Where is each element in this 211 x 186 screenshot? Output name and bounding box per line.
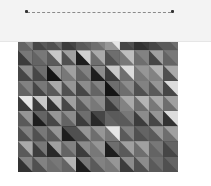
mosaic-cell (105, 111, 120, 126)
mosaic-cell (105, 126, 120, 141)
mosaic-cell (134, 126, 149, 141)
end-marker[interactable] (171, 10, 174, 13)
dashed-track[interactable] (27, 12, 171, 13)
mosaic-cell (163, 141, 178, 156)
mosaic-cell (18, 126, 33, 141)
mosaic-cell (149, 81, 164, 96)
mosaic-cell (105, 81, 120, 96)
mosaic-cell (105, 96, 120, 111)
mosaic-cell (18, 157, 33, 172)
mosaic-cell (105, 50, 120, 65)
mosaic-cell (91, 141, 106, 156)
mosaic-cell (149, 141, 164, 156)
mosaic-cell (120, 65, 135, 80)
mosaic-cell (120, 126, 135, 141)
mosaic-cell (47, 65, 62, 80)
mosaic-cell (163, 96, 178, 111)
mosaic-cell (134, 96, 149, 111)
mosaic-cell (120, 111, 135, 126)
mosaic-cell (18, 141, 33, 156)
mosaic-cell (33, 126, 48, 141)
mosaic-cell (33, 141, 48, 156)
mosaic-cell (163, 81, 178, 96)
mosaic-cell (134, 141, 149, 156)
mosaic-cell (62, 65, 77, 80)
mosaic-cell (47, 81, 62, 96)
mosaic-cell (91, 65, 106, 80)
mosaic-cell (62, 81, 77, 96)
mosaic-cell (76, 126, 91, 141)
mosaic-cell (76, 81, 91, 96)
mosaic-cell (134, 81, 149, 96)
mosaic-cell (149, 157, 164, 172)
mosaic-cell (62, 141, 77, 156)
mosaic-cell (47, 126, 62, 141)
mosaic-cell (62, 96, 77, 111)
mosaic-cell (120, 50, 135, 65)
mosaic-cell (134, 157, 149, 172)
triangle-mosaic-image (18, 35, 178, 172)
mosaic-cell (163, 111, 178, 126)
mosaic-cell (33, 65, 48, 80)
mosaic-cell (33, 96, 48, 111)
mosaic-cell (120, 81, 135, 96)
mosaic-cell (76, 65, 91, 80)
mosaic-cell (105, 141, 120, 156)
mosaic-cell (105, 157, 120, 172)
mosaic-cell (91, 50, 106, 65)
mosaic-cell (76, 141, 91, 156)
mosaic-cell (134, 65, 149, 80)
mosaic-cell (18, 111, 33, 126)
mosaic-cell (76, 111, 91, 126)
mosaic-cell (47, 96, 62, 111)
mosaic-cell (47, 141, 62, 156)
mosaic-cell (18, 81, 33, 96)
mosaic-cell (105, 65, 120, 80)
mosaic-cell (149, 111, 164, 126)
mosaic-cell (18, 65, 33, 80)
mosaic-cell (91, 126, 106, 141)
mosaic-cell (163, 65, 178, 80)
mosaic-cell (120, 96, 135, 111)
mosaic-cell (47, 50, 62, 65)
mosaic-cell (76, 96, 91, 111)
mosaic-cell (149, 50, 164, 65)
mosaic-cell (62, 50, 77, 65)
mosaic-cell (163, 50, 178, 65)
mosaic-cell (134, 111, 149, 126)
mosaic-cell (33, 81, 48, 96)
mosaic-cell (76, 157, 91, 172)
header-bar (0, 0, 211, 42)
mosaic-cell (120, 157, 135, 172)
mosaic-cell (91, 111, 106, 126)
mosaic-cell (62, 111, 77, 126)
mosaic-cell (134, 50, 149, 65)
mosaic-cell (47, 157, 62, 172)
mosaic-cell (91, 96, 106, 111)
mosaic-cell (33, 111, 48, 126)
mosaic-cell (149, 126, 164, 141)
mosaic-cell (33, 50, 48, 65)
mosaic-cell (120, 141, 135, 156)
mosaic-cell (163, 126, 178, 141)
mosaic-cell (62, 126, 77, 141)
mosaic-cell (91, 81, 106, 96)
mosaic-cell (18, 50, 33, 65)
mosaic-cell (33, 157, 48, 172)
mosaic-cell (47, 111, 62, 126)
mosaic-cell (149, 96, 164, 111)
start-marker[interactable] (25, 10, 28, 13)
mosaic-cell (76, 50, 91, 65)
mosaic-cell (91, 157, 106, 172)
mosaic-cell (163, 157, 178, 172)
mosaic-cell (149, 65, 164, 80)
mosaic-cell (62, 157, 77, 172)
mosaic-cell (18, 96, 33, 111)
